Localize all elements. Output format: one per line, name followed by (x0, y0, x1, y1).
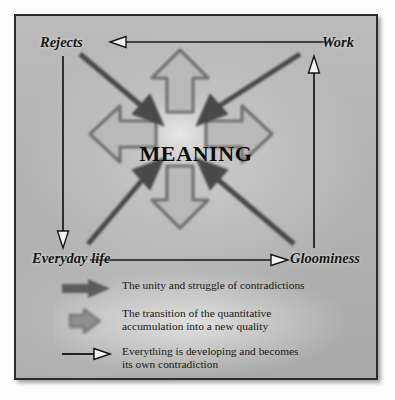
legend-icon-wrap-3 (60, 344, 122, 364)
corner-label-rejects: Rejects (40, 34, 83, 51)
legend-icon-wrap-2 (60, 306, 122, 336)
legend: The unity and struggle of contradictions… (60, 274, 350, 372)
legend-item-developing: Everything is developing and becomes its… (60, 344, 299, 370)
corner-label-everyday-life: Everyday life (32, 250, 111, 267)
inward-arrow-from-gloominess (196, 158, 294, 244)
legend-item-unity: The unity and struggle of contradictions (60, 278, 305, 300)
edge-everyday-to-gloominess (90, 255, 288, 266)
legend-text-2: The transition of the quantitative accum… (122, 306, 271, 332)
corner-label-gloominess: Gloominess (290, 250, 360, 267)
legend-icon-wrap-1 (60, 278, 122, 300)
legend-text-3: Everything is developing and becomes its… (122, 344, 299, 370)
thin-line-arrow-icon (60, 344, 122, 364)
center-label-meaning: MEANING (16, 141, 376, 167)
legend-item-transition: The transition of the quantitative accum… (60, 306, 271, 336)
diagram-plate: Rejects Work Everyday life Gloominess ME… (14, 14, 378, 380)
hollow-block-arrow-icon (60, 306, 122, 336)
edge-work-to-rejects (110, 37, 332, 48)
solid-thick-arrow-icon (60, 278, 122, 300)
corner-label-work: Work (322, 34, 354, 51)
diagram-page: Rejects Work Everyday life Gloominess ME… (0, 0, 395, 400)
legend-text-1: The unity and struggle of contradictions (122, 278, 305, 292)
